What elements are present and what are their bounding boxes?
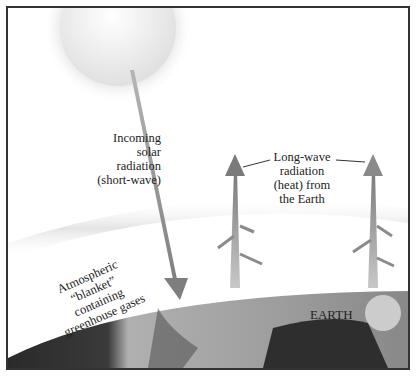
label-line: solar (66, 145, 161, 159)
label-line: radiation (66, 159, 161, 173)
sun-icon (43, 8, 193, 103)
label-line: Incoming (66, 131, 161, 145)
outgoing-arrow-left-icon (218, 154, 262, 288)
atmosphere-band (8, 199, 408, 258)
label-line: Long-wave (258, 150, 346, 164)
label-line: (heat) from (258, 178, 346, 192)
longwave-radiation-label: Long-wave radiation (heat) from the Eart… (258, 150, 346, 206)
diagram-frame: Incoming solar radiation (short-wave) Lo… (6, 6, 410, 370)
earth-label: EARTH (310, 308, 353, 322)
label-line: radiation (258, 164, 346, 178)
outgoing-arrow-right-icon (353, 154, 394, 288)
incoming-radiation-label: Incoming solar radiation (short-wave) (66, 131, 161, 187)
label-line: the Earth (258, 192, 346, 206)
label-line: (short-wave) (66, 173, 161, 187)
